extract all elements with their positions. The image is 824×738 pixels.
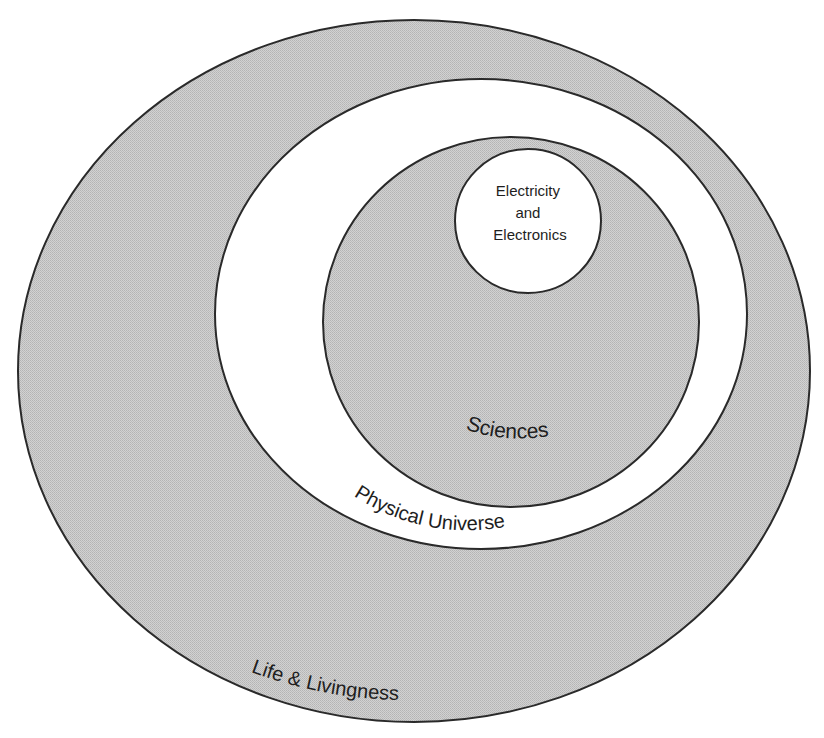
electricity-and-electronics-region bbox=[455, 149, 601, 293]
nested-ellipse-diagram: Electricity and Electronics Sciences Phy… bbox=[0, 0, 824, 738]
